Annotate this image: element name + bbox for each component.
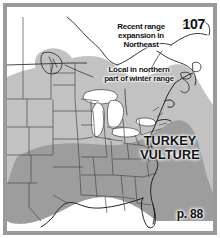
map-frame: Recent range expansion in Northeast Loca… <box>3 3 217 235</box>
annotation-local-northern-winter-range: Local in northern part of winter range <box>85 65 193 83</box>
range-map-figure: Recent range expansion in Northeast Loca… <box>0 0 220 238</box>
species-name-line-2: VULTURE <box>134 149 206 163</box>
plate-number: 107 <box>183 16 205 32</box>
annotation-recent-range-expansion: Recent range expansion in Northeast <box>105 22 177 50</box>
species-name-line-1: TURKEY <box>134 135 206 149</box>
species-name: TURKEY VULTURE <box>134 135 206 162</box>
page-reference: p. 88 <box>177 207 203 221</box>
